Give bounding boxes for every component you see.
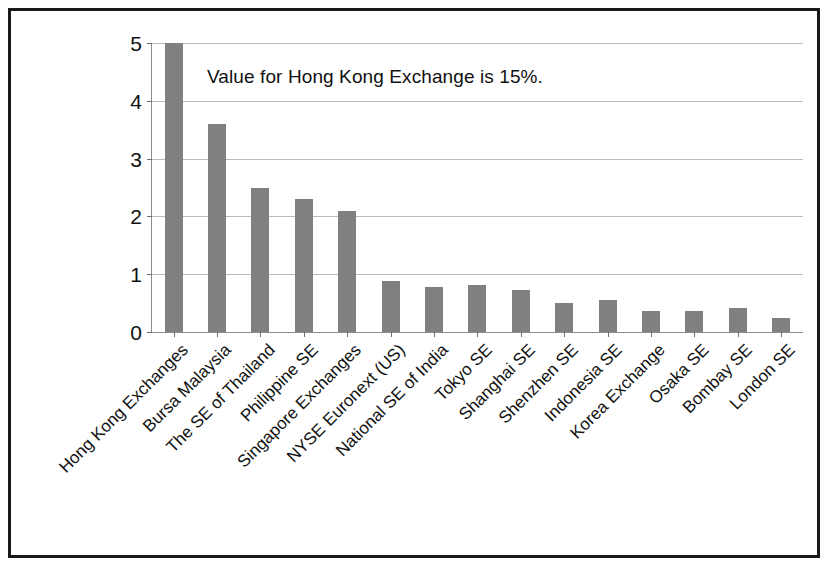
bar-slot [760, 43, 803, 332]
y-tick-label: 1 [130, 264, 142, 285]
bar-slot [152, 43, 195, 332]
bar[interactable] [685, 311, 703, 332]
y-tick-label: 5 [130, 33, 142, 54]
y-tick-label: 2 [130, 206, 142, 227]
bar[interactable] [251, 188, 269, 333]
bar-slot [586, 43, 629, 332]
bar[interactable] [729, 308, 747, 332]
bar[interactable] [468, 285, 486, 332]
bar[interactable] [512, 290, 530, 332]
x-axis-labels: Hong Kong ExchangesBursa MalaysiaThe SE … [151, 333, 803, 543]
bar[interactable] [295, 199, 313, 332]
bar[interactable] [425, 287, 443, 332]
bar-slot [629, 43, 672, 332]
bar-slot [716, 43, 759, 332]
bar[interactable] [382, 281, 400, 332]
bar[interactable] [555, 303, 573, 332]
bar[interactable] [165, 43, 183, 332]
bar[interactable] [208, 124, 226, 332]
y-tick-label: 3 [130, 148, 142, 169]
y-tick-label: 0 [130, 322, 142, 343]
bar[interactable] [338, 211, 356, 332]
figure-frame: 012345 Value for Hong Kong Exchange is 1… [8, 8, 820, 558]
bar-slot [543, 43, 586, 332]
bar[interactable] [772, 318, 790, 332]
chart-annotation: Value for Hong Kong Exchange is 15%. [207, 66, 543, 88]
bar[interactable] [642, 311, 660, 332]
y-tick-label: 4 [130, 90, 142, 111]
bar[interactable] [599, 300, 617, 332]
bar-slot [673, 43, 716, 332]
